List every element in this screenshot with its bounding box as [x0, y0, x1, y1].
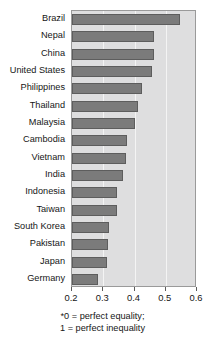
bar-indonesia	[72, 187, 117, 198]
category-label-thailand: Thailand	[30, 97, 65, 114]
tick-label-0.2: 0.2	[64, 292, 77, 304]
category-label-germany: Germany	[27, 270, 65, 287]
value-axis: 0.20.30.40.50.6	[71, 287, 196, 309]
footnote-line-1: *0 = perfect equality;	[0, 310, 205, 322]
category-label-india: India	[45, 166, 65, 183]
tick-label-0.6: 0.6	[189, 292, 202, 304]
category-label-south-korea: South Korea	[14, 218, 65, 235]
category-label-japan: Japan	[40, 253, 65, 270]
footnote-line-2: 1 = perfect inequality	[0, 322, 205, 334]
gridline	[166, 11, 167, 286]
tick-mark	[134, 287, 135, 291]
tick-label-0.3: 0.3	[96, 292, 109, 304]
bar-thailand	[72, 101, 138, 112]
bar-cambodia	[72, 135, 127, 146]
bar-china	[72, 49, 154, 60]
tick-mark	[71, 287, 72, 291]
bar-pakistan	[72, 239, 108, 250]
bar-india	[72, 170, 123, 181]
tick-mark	[196, 287, 197, 291]
category-label-taiwan: Taiwan	[36, 201, 65, 218]
bar-nepal	[72, 31, 154, 42]
bar-germany	[72, 274, 98, 285]
bar-brazil	[72, 14, 180, 25]
bar-japan	[72, 257, 107, 268]
category-label-pakistan: Pakistan	[30, 235, 65, 252]
category-label-united-states: United States	[10, 62, 65, 79]
category-label-vietnam: Vietnam	[31, 149, 65, 166]
gini-coefficient-bar-chart: BrazilNepalChinaUnited StatesPhilippines…	[0, 0, 205, 347]
chart-footnote: *0 = perfect equality; 1 = perfect inequ…	[0, 310, 205, 334]
bar-south-korea	[72, 222, 109, 233]
tick-mark	[102, 287, 103, 291]
tick-label-0.5: 0.5	[158, 292, 171, 304]
category-axis: BrazilNepalChinaUnited StatesPhilippines…	[0, 10, 68, 287]
category-label-philippines: Philippines	[21, 79, 65, 96]
category-label-cambodia: Cambodia	[23, 131, 65, 148]
category-label-nepal: Nepal	[41, 27, 65, 44]
plot-area	[71, 10, 196, 287]
tick-mark	[165, 287, 166, 291]
bar-united-states	[72, 66, 152, 77]
bar-taiwan	[72, 205, 117, 216]
bar-vietnam	[72, 153, 126, 164]
category-label-china: China	[41, 45, 65, 62]
bar-malaysia	[72, 118, 135, 129]
category-label-malaysia: Malaysia	[29, 114, 65, 131]
category-label-indonesia: Indonesia	[25, 183, 65, 200]
tick-label-0.4: 0.4	[127, 292, 140, 304]
bar-philippines	[72, 83, 142, 94]
category-label-brazil: Brazil	[42, 10, 65, 27]
